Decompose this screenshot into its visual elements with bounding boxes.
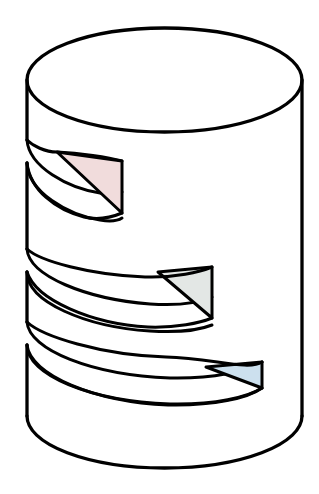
helical-cylinder-illustration <box>0 0 319 494</box>
cylinder-body <box>27 28 302 468</box>
